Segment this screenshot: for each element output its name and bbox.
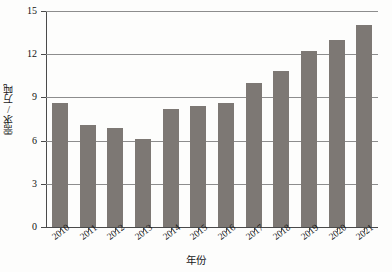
y-tick-label-6: 6	[17, 136, 37, 146]
bar-2017	[246, 83, 262, 227]
y-axis-title: 需求/万吨	[3, 84, 18, 135]
y-tick-label-15: 15	[17, 6, 37, 16]
bar-2014	[163, 109, 179, 227]
bar-2020	[329, 40, 345, 227]
y-tick-label-9: 9	[17, 92, 37, 102]
gridline-15	[46, 11, 378, 12]
bar-2019	[301, 51, 317, 227]
bar-2016	[218, 103, 234, 227]
plot-area	[46, 11, 378, 227]
bar-2012	[107, 128, 123, 227]
y-tick-label-3: 3	[17, 179, 37, 189]
x-axis-title: 年份	[0, 252, 392, 267]
y-tick-label-0: 0	[17, 222, 37, 232]
y-tick-label-12: 12	[17, 49, 37, 59]
bar-chart: 需求/万吨 03691215 2010201120122013201420152…	[0, 0, 392, 272]
bar-2010	[52, 103, 68, 227]
bar-2013	[135, 139, 151, 227]
bar-2021	[356, 25, 372, 227]
bar-2011	[80, 125, 96, 227]
bar-2015	[190, 106, 206, 227]
bar-2018	[273, 71, 289, 227]
